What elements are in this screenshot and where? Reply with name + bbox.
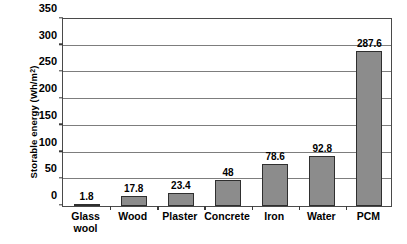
bar-group[interactable]: 92.8: [309, 19, 335, 206]
bar-value-label: 92.8: [313, 144, 332, 154]
bar-group[interactable]: 17.8: [121, 19, 147, 206]
bar[interactable]: [215, 180, 241, 206]
bar-value-label: 1.8: [80, 192, 94, 202]
plot-area: 050100150200250300350 1.817.823.44878.69…: [62, 18, 392, 207]
bar-value-label: 287.6: [357, 39, 382, 49]
bar-value-label: 78.6: [265, 152, 284, 162]
y-tick-label: 250: [39, 56, 57, 67]
x-category-label: Plaster: [162, 210, 197, 222]
x-axis-labels: Glass woolWoodPlasterConcreteIronWaterPC…: [62, 210, 392, 244]
x-category-label: Glass wool: [71, 210, 100, 234]
x-category-label: Iron: [264, 210, 284, 222]
bar-group[interactable]: 78.6: [262, 19, 288, 206]
bars-layer: 1.817.823.44878.692.8287.6: [63, 19, 391, 206]
y-tick-label: 200: [39, 83, 57, 94]
bar-group[interactable]: 287.6: [356, 19, 382, 206]
bar-value-label: 23.4: [171, 181, 190, 191]
bar[interactable]: [356, 51, 382, 206]
y-tick-label: 50: [45, 163, 57, 174]
y-axis-title-text: Storable energy (Wh/m: [28, 73, 39, 179]
x-category-label: Concrete: [204, 210, 250, 222]
bar[interactable]: [121, 196, 147, 206]
bar-value-label: 17.8: [124, 184, 143, 194]
bar[interactable]: [168, 193, 194, 206]
y-tick-label: 350: [39, 3, 57, 14]
bar-group[interactable]: 1.8: [74, 19, 100, 206]
bar[interactable]: [262, 164, 288, 206]
y-axis-title-tail: ): [28, 66, 39, 69]
x-category-label: Water: [307, 210, 336, 222]
bar[interactable]: [74, 204, 100, 206]
y-tick-label: 150: [39, 109, 57, 120]
x-category-label: PCM: [357, 210, 380, 222]
bar[interactable]: [309, 156, 335, 206]
y-tick-label: 100: [39, 136, 57, 147]
y-tick-label: 300: [39, 29, 57, 40]
y-tick-label: 0: [51, 190, 57, 201]
x-category-label: Wood: [118, 210, 147, 222]
bar-group[interactable]: 48: [215, 19, 241, 206]
bar-value-label: 48: [222, 168, 233, 178]
bar-chart: Storable energy (Wh/m2) 0501001502002503…: [0, 0, 407, 244]
bar-group[interactable]: 23.4: [168, 19, 194, 206]
